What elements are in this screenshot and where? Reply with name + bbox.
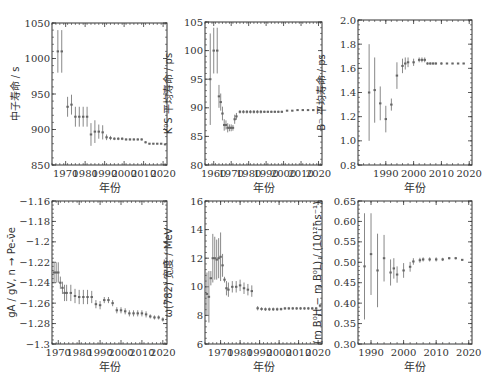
data-point bbox=[141, 312, 143, 314]
data-point bbox=[132, 312, 134, 314]
data-point bbox=[461, 259, 463, 261]
plot-frame bbox=[358, 201, 472, 344]
data-point bbox=[462, 63, 464, 65]
data-point bbox=[235, 286, 237, 288]
data-point bbox=[86, 296, 88, 298]
data-point bbox=[219, 256, 221, 258]
data-point bbox=[239, 111, 241, 113]
data-point bbox=[303, 307, 305, 309]
y-axis-label: gA / gV, n → Pe-ν̄e bbox=[6, 227, 17, 318]
x-tick-label: 2020 bbox=[305, 347, 330, 358]
y-tick-label: 950 bbox=[31, 89, 50, 100]
x-axis-label: 年份 bbox=[404, 181, 426, 195]
data-point bbox=[109, 137, 111, 139]
data-point bbox=[260, 308, 262, 310]
x-tick-label: 2000 bbox=[401, 168, 426, 179]
data-point bbox=[148, 143, 150, 145]
data-point bbox=[291, 110, 293, 112]
data-point bbox=[121, 138, 123, 140]
data-point bbox=[57, 50, 59, 52]
data-point bbox=[274, 111, 276, 113]
y-tick-label: 8 bbox=[197, 310, 203, 321]
chart-panel-neutron: 8509009501000105019701980199020002010202… bbox=[9, 18, 176, 196]
data-point bbox=[206, 293, 208, 295]
y-tick-label: 95 bbox=[190, 74, 203, 85]
x-axis-label: 年份 bbox=[404, 360, 426, 374]
data-point bbox=[124, 310, 126, 312]
data-point bbox=[292, 307, 294, 309]
data-point bbox=[218, 95, 220, 97]
y-tick-label: 100 bbox=[184, 45, 203, 56]
data-point bbox=[210, 277, 212, 279]
data-point bbox=[223, 279, 225, 281]
data-point bbox=[256, 307, 258, 309]
y-tick-label: 12 bbox=[190, 253, 203, 264]
data-point bbox=[63, 292, 65, 294]
data-point bbox=[242, 111, 244, 113]
y-tick-label: −1.18 bbox=[19, 216, 50, 227]
data-point bbox=[55, 272, 57, 274]
data-point bbox=[103, 299, 105, 301]
data-point bbox=[402, 269, 404, 271]
data-point bbox=[107, 299, 109, 301]
data-point bbox=[368, 92, 370, 94]
y-tick-label: −1.22 bbox=[19, 257, 50, 268]
data-point bbox=[393, 267, 395, 269]
data-point bbox=[66, 106, 68, 108]
x-axis-label: 年份 bbox=[99, 181, 121, 195]
data-point bbox=[235, 115, 237, 117]
data-point bbox=[446, 63, 448, 65]
data-point bbox=[247, 289, 249, 291]
data-point bbox=[221, 113, 223, 115]
data-point bbox=[137, 312, 139, 314]
data-point bbox=[264, 308, 266, 310]
data-point bbox=[70, 292, 72, 294]
data-point bbox=[448, 257, 450, 259]
data-point bbox=[128, 312, 130, 314]
data-point bbox=[129, 138, 131, 140]
y-tick-label: −1.16 bbox=[19, 196, 50, 207]
y-tick-label: 2.0 bbox=[340, 15, 356, 26]
data-point bbox=[53, 272, 55, 274]
data-point bbox=[65, 292, 67, 294]
data-point bbox=[156, 143, 158, 145]
data-point bbox=[432, 63, 434, 65]
data-point bbox=[281, 111, 283, 113]
data-point bbox=[424, 59, 426, 61]
x-tick-label: 2010 bbox=[429, 168, 454, 179]
y-tick-label: −1.28 bbox=[19, 318, 50, 329]
data-point bbox=[422, 258, 424, 260]
y-axis-label: (m B⁰H − m B⁰L) / (10¹²ħs⁻¹) bbox=[312, 201, 323, 344]
data-point bbox=[120, 309, 122, 311]
data-point bbox=[270, 111, 272, 113]
x-axis-label: 年份 bbox=[253, 181, 275, 195]
y-axis-label: K⁰S 平均寿命 / ps bbox=[162, 53, 174, 134]
data-point bbox=[116, 309, 118, 311]
data-point bbox=[101, 131, 103, 133]
chart-panel-gagv: −1.3−1.28−1.26−1.24−1.22−1.2−1.18−1.1619… bbox=[6, 196, 176, 375]
data-point bbox=[268, 308, 270, 310]
x-tick-label: 2020 bbox=[150, 347, 175, 358]
data-point bbox=[227, 289, 229, 291]
data-point bbox=[418, 59, 420, 61]
data-point bbox=[385, 118, 387, 120]
data-point bbox=[61, 50, 63, 52]
data-point bbox=[160, 143, 162, 145]
y-tick-label: 10 bbox=[190, 281, 203, 292]
data-point bbox=[451, 63, 453, 65]
data-point bbox=[74, 295, 76, 297]
y-tick-label: 850 bbox=[31, 160, 50, 171]
y-tick-label: 14 bbox=[190, 224, 203, 235]
data-point bbox=[216, 50, 218, 52]
data-point bbox=[117, 138, 119, 140]
data-point bbox=[113, 138, 115, 140]
y-axis-label: B⁻ 平均寿命 / ps bbox=[315, 54, 327, 131]
data-point bbox=[272, 308, 274, 310]
x-tick-label: 2020 bbox=[306, 168, 331, 179]
data-point bbox=[74, 116, 76, 118]
x-tick-label: 2020 bbox=[150, 168, 175, 179]
data-point bbox=[144, 141, 146, 143]
data-point bbox=[396, 75, 398, 77]
data-point bbox=[302, 109, 304, 111]
data-point bbox=[90, 133, 92, 135]
